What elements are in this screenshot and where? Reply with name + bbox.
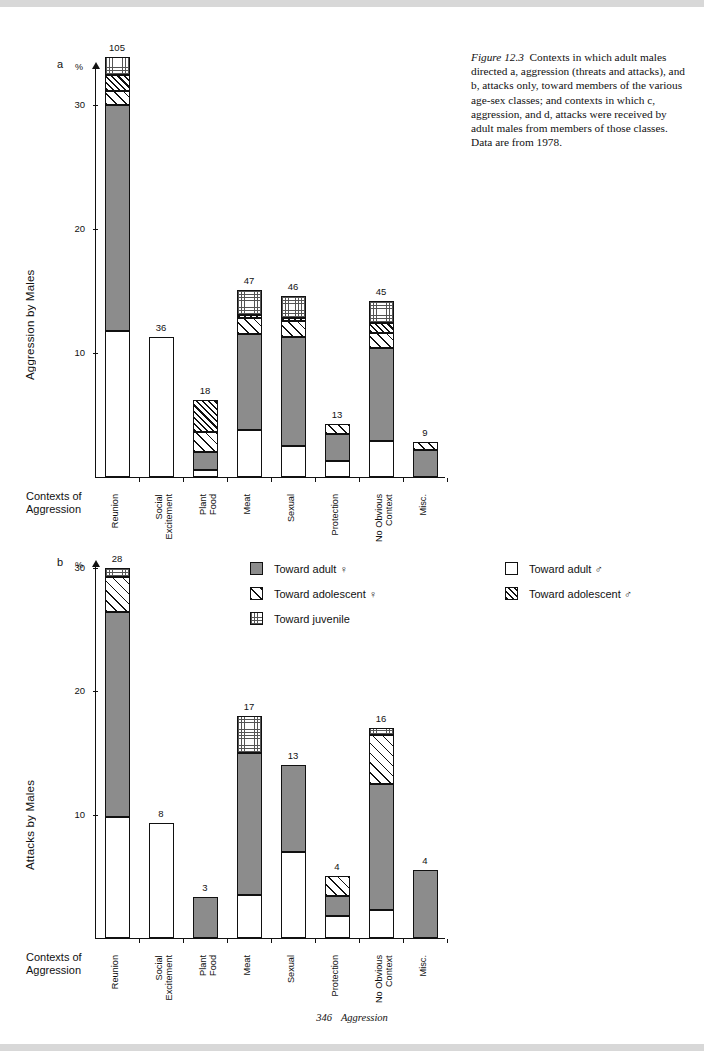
y-tick [93, 229, 98, 230]
bar-segment-adultM [281, 852, 306, 938]
bar-total-label: 45 [361, 286, 401, 297]
bar-b-7 [413, 870, 438, 938]
bar-total-label: 13 [273, 750, 313, 761]
bar-a-0 [105, 57, 130, 477]
x-tick [183, 939, 184, 943]
legend-swatch-adult-female [250, 562, 263, 575]
x-tick [315, 478, 316, 482]
bar-b-4 [281, 765, 306, 938]
bar-a-6 [369, 301, 394, 477]
legend-label-adolescent-male: Toward adolescent ♂ [529, 588, 632, 600]
bar-a-1 [149, 337, 174, 477]
x-tick [227, 939, 228, 943]
bar-total-label: 36 [141, 322, 181, 333]
bar-total-label: 4 [405, 855, 445, 866]
bar-segment-juv [369, 301, 394, 323]
bar-segment-adultF [325, 434, 350, 461]
bar-total-label: 9 [405, 427, 445, 438]
bar-total-label: 46 [273, 281, 313, 292]
x-tick [227, 478, 228, 482]
bar-b-6 [369, 728, 394, 938]
category-label-a-0: Reunion [110, 494, 120, 528]
legend-item-adult-male: Toward adult ♂ [505, 562, 603, 575]
x-tick [315, 939, 316, 943]
bar-segment-adultF [413, 870, 438, 938]
bar-segment-adultM [237, 430, 262, 477]
bar-a-7 [413, 442, 438, 477]
chart-legend: Toward adult ♀ Toward adolescent ♀ Towar… [0, 0, 704, 40]
legend-swatch-adolescent-male [505, 587, 518, 600]
y-tick [93, 105, 98, 106]
bar-a-3 [237, 290, 262, 477]
y-tick-label: 10 [63, 809, 85, 820]
y-tick-label: 10 [63, 347, 85, 358]
bar-segment-adolM [369, 323, 394, 333]
legend-swatch-adult-male [505, 562, 518, 575]
bar-segment-juv [281, 296, 306, 318]
bar-segment-juv [105, 568, 130, 578]
y-tick-label: 20 [63, 685, 85, 696]
bar-segment-adultF [369, 784, 394, 910]
bar-total-label: 4 [317, 861, 357, 872]
category-label-a-1: Social Excitement [154, 494, 174, 539]
footer-title: Aggression [341, 1012, 388, 1023]
bar-segment-adolF [413, 442, 438, 449]
category-label-b-4: Sexual [286, 955, 296, 983]
bar-segment-adolF [281, 321, 306, 337]
y-tick-label: 30 [63, 99, 85, 110]
bar-total-label: 105 [97, 42, 137, 53]
bar-segment-adultF [413, 450, 438, 477]
bar-segment-adultM [105, 817, 130, 938]
legend-label-adult-male: Toward adult ♂ [529, 563, 603, 575]
bar-total-label: 28 [97, 553, 137, 564]
bar-segment-adultM [237, 895, 262, 938]
page-footer: 346Aggression [0, 1012, 704, 1023]
bar-segment-adolF [105, 91, 130, 105]
x-axis-title-a: Contexts of Aggression [26, 490, 82, 516]
legend-item-juvenile: Toward juvenile [250, 612, 350, 625]
bar-segment-adultM [281, 446, 306, 477]
category-label-b-1: Social Excitement [154, 955, 174, 1000]
bar-segment-adultM [193, 470, 218, 477]
bar-segment-adolF [105, 577, 130, 612]
x-tick [359, 478, 360, 482]
legend-item-adolescent-male: Toward adolescent ♂ [505, 587, 632, 600]
bar-b-5 [325, 876, 350, 938]
bar-total-label: 8 [141, 808, 181, 819]
bar-segment-juv [369, 728, 394, 735]
bar-b-3 [237, 716, 262, 938]
legend-label-adult-female: Toward adult ♀ [274, 563, 348, 575]
y-axis-b [95, 567, 96, 938]
x-axis-title-b: Contexts of Aggression [26, 951, 82, 977]
bar-segment-adolF [325, 876, 350, 896]
bar-a-5 [325, 424, 350, 477]
x-axis-b [95, 938, 445, 939]
category-label-b-6: No Obvious Context [374, 955, 394, 1003]
category-label-a-6: No Obvious Context [374, 494, 394, 542]
legend-swatch-adolescent-female [250, 587, 263, 600]
y-tick [93, 815, 98, 816]
x-tick [183, 478, 184, 482]
category-label-a-3: Meat [242, 494, 252, 514]
y-tick [93, 691, 98, 692]
bar-b-1 [149, 823, 174, 938]
x-tick [403, 939, 404, 943]
bar-segment-adultF [237, 334, 262, 429]
x-tick [447, 939, 448, 943]
x-tick [403, 478, 404, 482]
category-label-b-5: Protection [330, 955, 340, 996]
bar-segment-adultM [149, 337, 174, 477]
page-number: 346 [316, 1012, 332, 1023]
category-label-b-7: Misc. [418, 955, 428, 976]
x-tick [271, 478, 272, 482]
bar-segment-adolM [237, 315, 262, 319]
legend-label-adolescent-female: Toward adolescent ♀ [274, 588, 377, 600]
scan-edge-bottom [0, 1044, 704, 1051]
bar-segment-adolM [193, 400, 218, 432]
category-label-b-3: Meat [242, 955, 252, 975]
bar-segment-adolF [237, 318, 262, 334]
bar-segment-adultF [281, 765, 306, 851]
bar-a-2 [193, 400, 218, 477]
x-tick [271, 939, 272, 943]
x-tick [359, 939, 360, 943]
